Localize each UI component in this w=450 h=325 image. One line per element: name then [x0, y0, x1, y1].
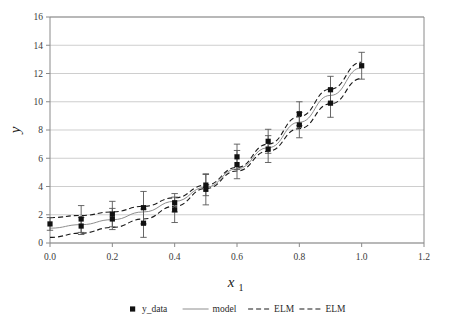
chart-canvas: 02468101214160.00.20.40.60.81.01.2yx1y_d…: [0, 0, 450, 325]
legend-label-0: y_data: [142, 304, 168, 314]
y-tick-label: 2: [38, 210, 43, 220]
data-point-marker: [328, 101, 333, 106]
y-tick-label: 8: [38, 125, 43, 135]
data-point-marker: [47, 221, 52, 226]
y-tick-label: 14: [34, 41, 44, 51]
data-point-marker: [141, 205, 146, 210]
legend-label-2: ELM: [274, 304, 295, 314]
x-tick-label: 1.2: [418, 252, 430, 262]
y-tick-label: 6: [38, 154, 43, 164]
legend-marker-0: [130, 306, 135, 311]
data-point-marker: [297, 122, 302, 127]
x-tick-label: 0.0: [44, 252, 56, 262]
data-point-marker: [172, 200, 177, 205]
y-tick-label: 4: [38, 182, 43, 192]
data-point-marker: [141, 221, 146, 226]
x-tick-label: 1.0: [356, 252, 368, 262]
x-tick-label: 0.6: [231, 252, 243, 262]
x-axis-title: x: [227, 274, 235, 290]
y-tick-label: 12: [34, 69, 44, 79]
x-tick-label: 0.2: [106, 252, 118, 262]
data-point-marker: [203, 187, 208, 192]
data-point-marker: [266, 146, 271, 151]
data-point-marker: [297, 111, 302, 116]
x-axis-title-subscript: 1: [239, 282, 244, 293]
data-point-marker: [266, 139, 271, 144]
chart-figure: 02468101214160.00.20.40.60.81.01.2yx1y_d…: [0, 0, 450, 325]
data-point-marker: [172, 207, 177, 212]
x-tick-label: 0.8: [293, 252, 305, 262]
y-tick-label: 0: [38, 238, 43, 248]
legend-label-3: ELM: [325, 304, 346, 314]
data-point-marker: [79, 223, 84, 228]
data-point-marker: [359, 63, 364, 68]
y-tick-label: 16: [34, 12, 44, 22]
y-axis-title: y: [7, 126, 23, 135]
data-point-marker: [110, 216, 115, 221]
data-point-marker: [328, 87, 333, 92]
data-point-marker: [110, 211, 115, 216]
data-point-marker: [234, 162, 239, 167]
data-point-marker: [234, 154, 239, 159]
legend-label-1: model: [213, 304, 237, 314]
data-point-marker: [79, 216, 84, 221]
y-tick-label: 10: [34, 97, 44, 107]
x-tick-label: 0.4: [169, 252, 181, 262]
